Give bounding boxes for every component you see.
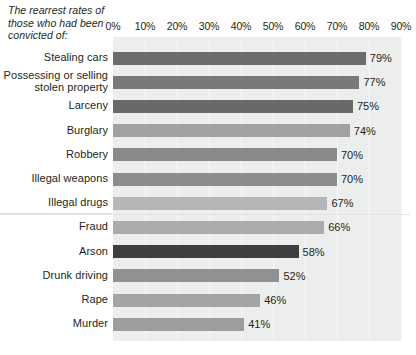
bar-value-label: 70% bbox=[341, 149, 363, 161]
bar-value-label: 79% bbox=[370, 52, 392, 64]
bar bbox=[113, 221, 324, 234]
bar bbox=[113, 197, 327, 210]
category-label: Stealing cars bbox=[0, 51, 108, 63]
category-label: Arson bbox=[0, 245, 108, 257]
bar-value-label: 66% bbox=[328, 221, 350, 233]
category-label-line: Illegal drugs bbox=[48, 196, 108, 208]
category-label-line: Burglary bbox=[67, 124, 108, 136]
x-tick-label: 70% bbox=[322, 20, 352, 32]
scan-fold-artifact-left bbox=[0, 213, 112, 214]
x-tick-label: 30% bbox=[194, 20, 224, 32]
category-label-line: stolen property bbox=[34, 81, 108, 93]
category-label: Larceny bbox=[0, 99, 108, 111]
category-label-line: Murder bbox=[73, 317, 108, 329]
bar bbox=[113, 269, 279, 282]
category-label-line: Possessing or selling bbox=[4, 69, 108, 81]
bar-value-label: 70% bbox=[341, 173, 363, 185]
category-label-line: Robbery bbox=[66, 148, 108, 160]
scan-fold-artifact bbox=[0, 214, 410, 215]
gridline bbox=[401, 37, 402, 341]
bar bbox=[113, 52, 366, 65]
x-axis-tick-labels: 0%10%20%30%40%50%60%70%80%90% bbox=[0, 20, 410, 35]
bar-value-label: 41% bbox=[248, 318, 270, 330]
category-label-line: Larceny bbox=[69, 99, 108, 111]
category-label-line: Arson bbox=[79, 245, 108, 257]
bar bbox=[113, 76, 359, 89]
category-label: Murder bbox=[0, 317, 108, 329]
category-label-line: Illegal weapons bbox=[31, 172, 108, 184]
category-label: Drunk driving bbox=[0, 269, 108, 281]
bar bbox=[113, 148, 337, 161]
bar-value-label: 67% bbox=[331, 197, 353, 209]
bar-value-label: 75% bbox=[357, 100, 379, 112]
x-tick-label: 10% bbox=[130, 20, 160, 32]
bar-value-label: 74% bbox=[354, 125, 376, 137]
category-label: Robbery bbox=[0, 148, 108, 160]
bar bbox=[113, 124, 350, 137]
category-label: Possessing or sellingstolen property bbox=[0, 69, 108, 93]
bar bbox=[113, 173, 337, 186]
bar-value-label: 58% bbox=[303, 246, 325, 258]
x-tick-label: 90% bbox=[386, 20, 416, 32]
category-label-line: Rape bbox=[82, 293, 109, 305]
category-label-line: Stealing cars bbox=[44, 51, 108, 63]
bar-value-label: 77% bbox=[363, 76, 385, 88]
x-tick-label: 50% bbox=[258, 20, 288, 32]
category-label: Illegal weapons bbox=[0, 172, 108, 184]
category-label-line: Fraud bbox=[79, 220, 108, 232]
bar bbox=[113, 294, 260, 307]
bar-value-label: 46% bbox=[264, 294, 286, 306]
x-tick-label: 20% bbox=[162, 20, 192, 32]
category-label: Burglary bbox=[0, 124, 108, 136]
x-tick-label: 60% bbox=[290, 20, 320, 32]
category-label-line: Drunk driving bbox=[43, 269, 108, 281]
bar bbox=[113, 100, 353, 113]
category-label: Fraud bbox=[0, 220, 108, 232]
x-tick-label: 0% bbox=[98, 20, 128, 32]
bar bbox=[113, 318, 244, 331]
category-label: Rape bbox=[0, 293, 108, 305]
x-tick-label: 40% bbox=[226, 20, 256, 32]
bar bbox=[113, 245, 299, 258]
bar-value-label: 52% bbox=[283, 270, 305, 282]
x-tick-label: 80% bbox=[354, 20, 384, 32]
category-label: Illegal drugs bbox=[0, 196, 108, 208]
plot-area bbox=[113, 37, 402, 341]
